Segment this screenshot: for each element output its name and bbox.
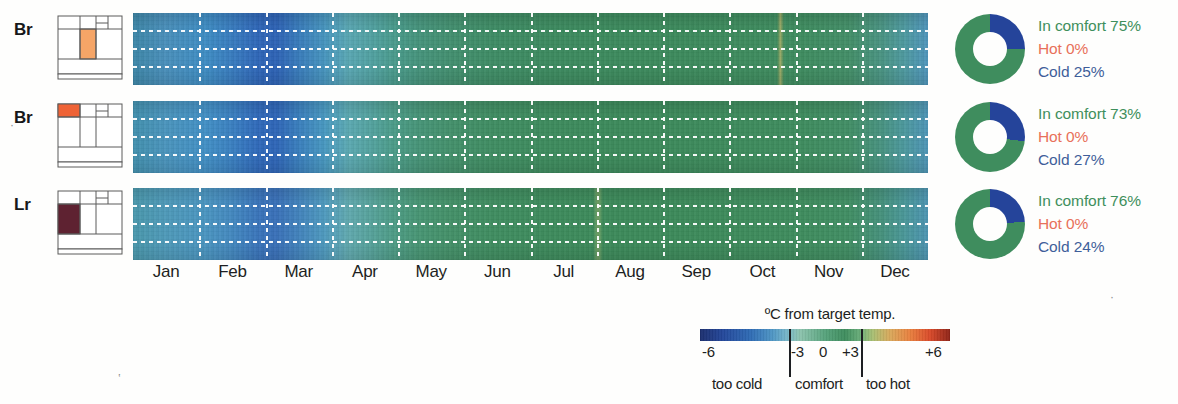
stat-hot: Hot 0% (1038, 125, 1178, 148)
heatmap-gridline-v (663, 188, 665, 260)
heatmap-gridline-v (729, 101, 731, 173)
heatmap-gridline-v (531, 101, 533, 173)
heatmap-gridline-v (398, 13, 400, 85)
floorplan-svg (57, 188, 123, 260)
heatmap-gridline-v (663, 101, 665, 173)
figure-root: Br (0, 0, 1178, 404)
stat-cold: Cold 25% (1038, 60, 1178, 83)
comfort-stats: In comfort 75% Hot 0% Cold 25% (1038, 14, 1178, 83)
scan-speck: · (1110, 290, 1114, 304)
month-label-jan: Jan (133, 262, 199, 282)
month-label-apr: Apr (332, 262, 398, 282)
month-label-sep: Sep (663, 262, 729, 282)
floorplan-highlight-cell (58, 104, 80, 117)
heatmap-gridline-v (862, 188, 864, 260)
heatmap-gridline-v (663, 13, 665, 85)
heatmap-gridline-v (199, 13, 201, 85)
heatmap-gridline-v (729, 13, 731, 85)
heatmap-gridline-v (862, 101, 864, 173)
colorbar-divider-hot (861, 329, 863, 377)
scan-speck: ʽ (118, 372, 121, 386)
heatmap-gridline-v (398, 188, 400, 260)
heatmap-gridline-v (729, 188, 731, 260)
floorplan-living-room-left (57, 188, 123, 260)
heatmap-gridline-v (332, 188, 334, 260)
heatmap-gridline-v (199, 101, 201, 173)
colorbar-tick-minus3: -3 (791, 343, 804, 360)
colorbar-zone-too-cold: too cold (712, 375, 762, 392)
stat-hot: Hot 0% (1038, 212, 1178, 235)
colorbar-tick-minus6: -6 (702, 343, 715, 360)
colorbar-tick-zero: 0 (819, 343, 827, 360)
colorbar-zone-comfort: comfort (795, 375, 843, 392)
comfort-stats: In comfort 76% Hot 0% Cold 24% (1038, 189, 1178, 258)
stat-hot: Hot 0% (1038, 37, 1178, 60)
heatmap-gridline-v (464, 101, 466, 173)
row-label: Lr (14, 195, 50, 215)
comfort-stats: In comfort 73% Hot 0% Cold 27% (1038, 102, 1178, 171)
month-label-feb: Feb (199, 262, 265, 282)
row-label: Br (14, 108, 50, 128)
colorbar-tick-plus3: +3 (842, 343, 859, 360)
floorplan-highlight-cell (80, 29, 96, 59)
donut-hole (973, 207, 1007, 241)
month-label-jul: Jul (531, 262, 597, 282)
heatmap-gridline-v (266, 13, 268, 85)
floorplan-svg (57, 13, 123, 85)
month-label-nov: Nov (796, 262, 862, 282)
colorbar-tick-plus6: +6 (925, 343, 942, 360)
comfort-donut-chart (955, 14, 1025, 84)
heatmap-gridline-v (464, 188, 466, 260)
floorplan-highlight-cell (58, 204, 80, 234)
month-label-aug: Aug (597, 262, 663, 282)
heatmap-gridline-v (531, 13, 533, 85)
floorplan-bedroom-upper-left (57, 101, 123, 173)
heatmap-gridline-v (862, 13, 864, 85)
comfort-row: Br (0, 96, 1178, 178)
colorbar-title: ºC from target temp. (700, 305, 960, 322)
comfort-donut-chart (955, 189, 1025, 259)
stat-in-comfort: In comfort 75% (1038, 14, 1178, 37)
comfort-row: Br (0, 8, 1178, 90)
comfort-donut-chart (955, 102, 1025, 172)
heatmap-gridline-v (796, 188, 798, 260)
month-label-oct: Oct (729, 262, 795, 282)
month-label-jun: Jun (464, 262, 530, 282)
month-label-mar: Mar (266, 262, 332, 282)
heatmap-strip (133, 13, 928, 85)
scan-speck: · (10, 118, 14, 132)
heatmap-gridline-v (531, 188, 533, 260)
colorbar-legend: ºC from target temp. -6 -3 0 +3 +6 too c… (700, 305, 960, 400)
heatmap-gridline-v (398, 101, 400, 173)
heatmap-gridline-v (597, 101, 599, 173)
stat-in-comfort: In comfort 76% (1038, 189, 1178, 212)
donut-hole (973, 120, 1007, 154)
heatmap-gridline-v (597, 13, 599, 85)
row-label: Br (14, 20, 50, 40)
heatmap-gridline-v (464, 13, 466, 85)
heatmap-gridline-v (266, 188, 268, 260)
stat-cold: Cold 27% (1038, 148, 1178, 171)
colorbar-zone-too-hot: too hot (866, 375, 910, 392)
heatmap-gridline-v (199, 188, 201, 260)
floorplan-bedroom-upper-middle (57, 13, 123, 85)
month-axis: Jan Feb Mar Apr May Jun Jul Aug Sep Oct … (133, 262, 928, 288)
month-label-dec: Dec (862, 262, 928, 282)
heatmap-gridline-v (266, 101, 268, 173)
colorbar-texture (700, 329, 950, 341)
heatmap-strip (133, 101, 928, 173)
stat-in-comfort: In comfort 73% (1038, 102, 1178, 125)
heatmap-gridline-v (332, 101, 334, 173)
comfort-row: Lr (0, 183, 1178, 265)
floorplan-svg (57, 101, 123, 173)
heatmap-strip (133, 188, 928, 260)
heatmap-gridline-v (796, 101, 798, 173)
month-label-may: May (398, 262, 464, 282)
heatmap-gridline-v (796, 13, 798, 85)
heatmap-gridline-v (332, 13, 334, 85)
heatmap-gridline-v (597, 188, 599, 260)
stat-cold: Cold 24% (1038, 235, 1178, 258)
donut-hole (973, 32, 1007, 66)
